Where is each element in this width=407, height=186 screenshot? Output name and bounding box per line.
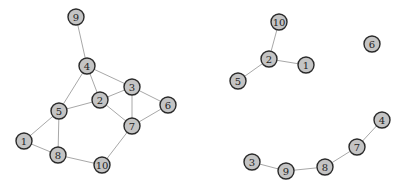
node-label: 3 bbox=[129, 82, 135, 93]
node-7: 7 bbox=[124, 118, 140, 134]
node-4: 4 bbox=[374, 112, 390, 128]
node-label: 5 bbox=[235, 76, 241, 87]
node-4: 4 bbox=[79, 58, 95, 74]
node-label: 7 bbox=[354, 142, 360, 153]
node-label: 9 bbox=[283, 166, 289, 177]
node-6: 6 bbox=[364, 36, 380, 52]
node-2: 2 bbox=[92, 92, 108, 108]
node-label: 6 bbox=[165, 100, 171, 111]
node-label: 3 bbox=[249, 157, 255, 168]
node-5: 5 bbox=[51, 103, 67, 119]
node-label: 5 bbox=[56, 106, 62, 117]
node-label: 10 bbox=[96, 160, 109, 171]
left-graph-nodes: 12345678910 bbox=[16, 9, 176, 173]
node-1: 1 bbox=[16, 133, 32, 149]
node-label: 4 bbox=[379, 115, 385, 126]
node-10: 10 bbox=[271, 14, 287, 30]
left-graph-edges bbox=[24, 17, 168, 165]
node-3: 3 bbox=[244, 154, 260, 170]
graph-canvas: 12345678910 10621547398 bbox=[0, 0, 407, 186]
node-label: 8 bbox=[322, 162, 328, 173]
node-label: 1 bbox=[303, 60, 309, 71]
node-2: 2 bbox=[261, 51, 277, 67]
node-7: 7 bbox=[349, 139, 365, 155]
node-label: 6 bbox=[369, 39, 375, 50]
right-graph-nodes: 10621547398 bbox=[230, 14, 390, 179]
node-10: 10 bbox=[94, 157, 110, 173]
node-label: 8 bbox=[55, 150, 61, 161]
node-label: 2 bbox=[266, 54, 272, 65]
left-graph: 12345678910 bbox=[16, 9, 176, 173]
node-6: 6 bbox=[160, 97, 176, 113]
node-3: 3 bbox=[124, 79, 140, 95]
node-label: 4 bbox=[84, 61, 90, 72]
node-9: 9 bbox=[68, 9, 84, 25]
node-label: 2 bbox=[97, 95, 103, 106]
node-9: 9 bbox=[278, 163, 294, 179]
node-label: 10 bbox=[273, 17, 286, 28]
right-graph: 10621547398 bbox=[230, 14, 390, 179]
node-1: 1 bbox=[298, 57, 314, 73]
node-5: 5 bbox=[230, 73, 246, 89]
node-8: 8 bbox=[50, 147, 66, 163]
node-label: 9 bbox=[73, 12, 79, 23]
node-label: 1 bbox=[21, 136, 27, 147]
node-8: 8 bbox=[317, 159, 333, 175]
node-label: 7 bbox=[129, 121, 135, 132]
